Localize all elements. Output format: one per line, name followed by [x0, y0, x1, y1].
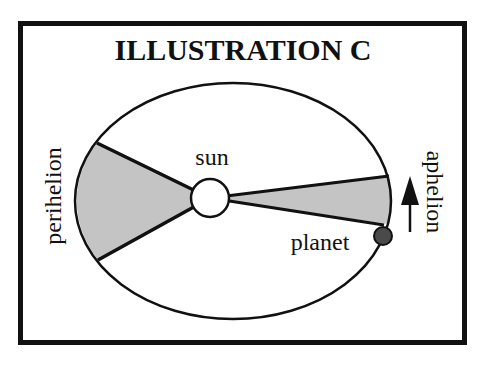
sun-icon — [191, 179, 229, 217]
illustration-c-diagram: ILLUSTRATION C sun planet perihelion aph… — [0, 0, 485, 367]
perihelion-label: perihelion — [40, 147, 66, 244]
planet-icon — [374, 227, 392, 245]
aphelion-label: aphelion — [422, 151, 448, 234]
diagram-title: ILLUSTRATION C — [114, 33, 371, 66]
planet-label: planet — [291, 229, 350, 255]
sun-label: sun — [195, 144, 228, 170]
